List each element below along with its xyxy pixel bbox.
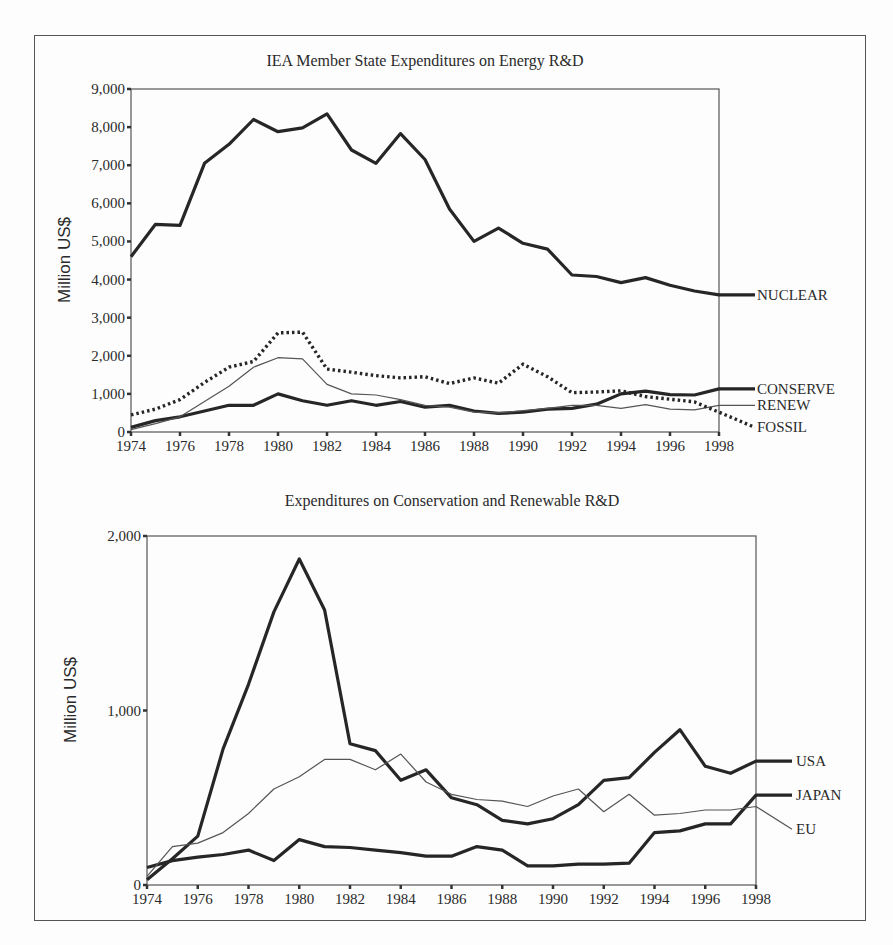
y-tick-label: 5,000	[91, 233, 125, 249]
x-tick-label: 1976	[183, 891, 214, 907]
series-line-eu	[147, 754, 792, 876]
x-tick-label: 1994	[606, 438, 637, 454]
series-label-usa: USA	[796, 753, 826, 769]
series-label-renew: RENEW	[757, 397, 811, 413]
y-tick-label: 8,000	[91, 119, 125, 135]
x-tick-label: 1984	[361, 438, 392, 454]
x-tick-label: 1992	[557, 438, 587, 454]
chart2-x-ticks: 1974197619781980198219841986198819901992…	[132, 885, 771, 907]
x-tick-label: 1986	[410, 438, 441, 454]
x-tick-label: 1978	[234, 891, 264, 907]
series-label-nuclear: NUCLEAR	[757, 287, 828, 303]
y-tick-label: 1,000	[91, 386, 125, 402]
y-tick-label: 2,000	[91, 348, 125, 364]
chart1-series-labels: NUCLEARCONSERVERENEWFOSSIL	[757, 287, 835, 436]
x-tick-label: 1988	[459, 438, 489, 454]
y-tick-label: 6,000	[91, 195, 125, 211]
x-tick-label: 1992	[589, 891, 619, 907]
y-tick-label: 3,000	[91, 310, 125, 326]
x-tick-label: 1998	[741, 891, 771, 907]
series-label-japan: JAPAN	[796, 787, 841, 803]
x-tick-label: 1980	[284, 891, 314, 907]
x-tick-label: 1994	[640, 891, 671, 907]
chart1-title: IEA Member State Expenditures on Energy …	[267, 52, 584, 70]
chart2-title: Expenditures on Conservation and Renewab…	[285, 492, 620, 510]
y-tick-label: 1,000	[107, 703, 141, 719]
chart2-y-ticks: 01,0002,000	[107, 528, 147, 893]
x-tick-label: 1976	[165, 438, 196, 454]
y-tick-label: 9,000	[91, 81, 125, 97]
series-line-fossil	[131, 332, 755, 427]
series-label-conserve: CONSERVE	[757, 381, 835, 397]
series-label-fossil: FOSSIL	[757, 419, 807, 435]
x-tick-label: 1988	[487, 891, 517, 907]
x-tick-label: 1974	[116, 438, 147, 454]
x-tick-label: 1990	[508, 438, 538, 454]
x-tick-label: 1982	[312, 438, 342, 454]
series-line-nuclear	[131, 114, 755, 295]
series-line-conserve	[131, 389, 755, 428]
series-line-japan	[147, 795, 792, 867]
chart-energy-rd: IEA Member State Expenditures on Energy …	[55, 52, 835, 454]
x-tick-label: 1984	[386, 891, 417, 907]
chart2-series	[147, 559, 792, 880]
x-tick-label: 1974	[132, 891, 163, 907]
x-tick-label: 1982	[335, 891, 365, 907]
x-tick-label: 1998	[704, 438, 734, 454]
chart1-y-axis-label: Million US$	[55, 216, 74, 303]
chart2-series-labels: USAJAPANEU	[796, 753, 841, 837]
x-tick-label: 1986	[437, 891, 468, 907]
x-tick-label: 1978	[214, 438, 244, 454]
chart-conservation-renewable-rd: Expenditures on Conservation and Renewab…	[61, 492, 841, 907]
x-tick-label: 1996	[655, 438, 686, 454]
chart1-x-ticks: 1974197619781980198219841986198819901992…	[116, 432, 734, 454]
series-label-eu: EU	[796, 821, 816, 837]
chart2-y-axis-label: Million US$	[61, 656, 80, 743]
chart1-y-ticks: 01,0002,0003,0004,0005,0006,0007,0008,00…	[91, 81, 131, 440]
y-tick-label: 7,000	[91, 157, 125, 173]
y-tick-label: 4,000	[91, 272, 125, 288]
chart1-series	[131, 114, 755, 430]
y-tick-label: 2,000	[107, 528, 141, 544]
x-tick-label: 1996	[690, 891, 721, 907]
x-tick-label: 1990	[538, 891, 568, 907]
charts-canvas: IEA Member State Expenditures on Energy …	[0, 0, 893, 945]
series-line-usa	[147, 559, 792, 880]
chart1-plot-area	[131, 89, 719, 432]
x-tick-label: 1980	[263, 438, 293, 454]
